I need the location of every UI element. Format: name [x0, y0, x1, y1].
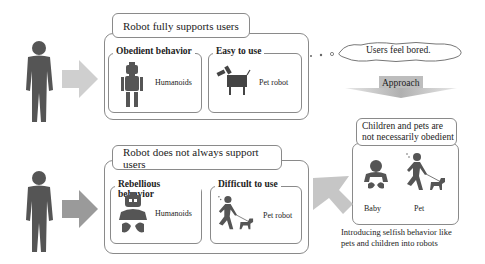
- panel-title: Easy to use: [213, 46, 264, 56]
- caption-line1: Introducing selfish behavior like: [341, 227, 452, 238]
- caption-line2: pets and children into robots: [341, 238, 452, 249]
- children-pets-title-line1: Children and pets are: [362, 121, 443, 132]
- panel-difficult-to-use: Difficult to use Pet robot: [210, 186, 302, 244]
- panel-easy-to-use: Easy to use Pet robot: [208, 53, 302, 113]
- top-group-title: Robot fully supports users: [112, 13, 250, 38]
- panel-rebellious-behavior: Rebellious behavior Humanoids: [110, 186, 202, 244]
- panel-label: Humanoids: [155, 209, 192, 218]
- thought-dots: [308, 50, 338, 60]
- user-icon-bottom: [20, 168, 60, 254]
- thought-bubble-text: Users feel bored.: [366, 45, 431, 55]
- bottom-group-title: Robot does not always support users: [112, 145, 282, 170]
- user-icon-top: [20, 38, 60, 124]
- person-walking-dog-icon: [217, 195, 255, 231]
- panel-label: Humanoids: [155, 78, 192, 87]
- arrow-right-bottom: [62, 190, 98, 228]
- panel-title: Difficult to use: [215, 179, 281, 189]
- panel-title: Obedient behavior: [113, 46, 195, 56]
- right-caption: Introducing selfish behavior like pets a…: [341, 227, 452, 249]
- arrow-down-left: [311, 170, 353, 216]
- children-pets-title: Children and pets are not necessarily ob…: [356, 118, 457, 146]
- pet-robot-icon: [217, 64, 251, 96]
- baby-icon: [363, 160, 389, 192]
- baby-robot-icon: [119, 192, 147, 238]
- person-walking-dog-icon: [405, 152, 447, 192]
- top-group-title-text: Robot fully supports users: [123, 20, 239, 32]
- bottom-group-title-text: Robot does not always support users: [123, 146, 281, 170]
- children-pets-title-line2: not necessarily obedient: [362, 132, 454, 143]
- panel-obedient-behavior: Obedient behavior Humanoids: [108, 53, 202, 113]
- baby-label: Baby: [364, 204, 381, 213]
- arrow-right-top: [62, 60, 98, 98]
- pet-label: Pet: [414, 204, 424, 213]
- panel-label: Pet robot: [263, 211, 292, 220]
- panel-label: Pet robot: [259, 78, 288, 87]
- approach-label: Approach: [382, 78, 419, 88]
- humanoid-robot-icon: [121, 62, 143, 108]
